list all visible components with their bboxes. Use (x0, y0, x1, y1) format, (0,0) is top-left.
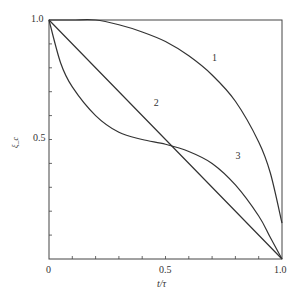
curve-1 (49, 20, 282, 224)
curve-label-3: 3 (235, 150, 240, 161)
x-tick-0.5: 0.5 (159, 264, 172, 275)
x-tick-1.0: 1.0 (274, 264, 287, 275)
y-tick-0.5: 0.5 (33, 132, 46, 143)
y-tick-1.0: 1.0 (31, 13, 44, 24)
y-axis-label: ξ_c (11, 137, 20, 148)
chart: 123 1.0 0.5 0 0.5 1.0 t/τ ξ_c (0, 0, 300, 300)
curve-label-1: 1 (212, 52, 217, 63)
x-axis-label: t/τ (157, 278, 166, 289)
curve-label-2: 2 (154, 97, 159, 108)
x-tick-0: 0 (46, 264, 51, 275)
curve-2 (49, 20, 282, 259)
plot-area: 123 (0, 0, 300, 300)
